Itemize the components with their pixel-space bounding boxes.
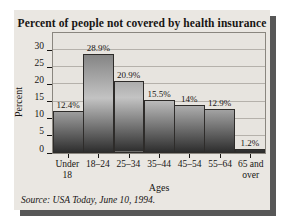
plot-area: 12.4%28.9%20.9%15.5%14%12.9%1.2%05101520…	[52, 32, 266, 154]
bar	[204, 109, 235, 153]
x-axis-tick	[220, 154, 221, 158]
y-axis-tick	[47, 84, 52, 85]
x-axis-title: Ages	[52, 182, 266, 193]
y-axis-tick	[47, 135, 52, 136]
bar-value-label: 28.9%	[87, 43, 110, 53]
y-axis-tick-label: 5	[22, 127, 44, 136]
x-axis-tick	[129, 154, 130, 158]
y-axis-tick-label: 15	[22, 93, 44, 102]
category-label: 45–54	[174, 159, 205, 181]
x-axis-category-row: Under 1818–2425–3435–4445–5455–6465 and …	[52, 159, 266, 181]
category-label: 18–24	[83, 159, 114, 181]
y-axis-tick-label: 25	[22, 58, 44, 67]
bar-value-label: 14%	[181, 94, 198, 104]
x-axis-tick	[250, 154, 251, 158]
y-axis-tick-label: 30	[22, 41, 44, 50]
category-label: 25–34	[113, 159, 144, 181]
category-label: 65 and over	[235, 159, 266, 181]
category-label: 35–44	[144, 159, 175, 181]
x-axis-tick	[189, 154, 190, 158]
category-label: Under 18	[52, 159, 83, 181]
y-axis-tick	[47, 153, 52, 154]
y-axis-tick	[47, 67, 52, 68]
source-citation: Source: USA Today, June 10, 1994.	[21, 195, 155, 205]
bar	[53, 111, 84, 154]
chart-card: Percent of people not covered by health …	[14, 10, 270, 210]
chart-title: Percent of people not covered by health …	[14, 17, 270, 29]
bar	[174, 105, 205, 153]
y-axis-tick	[47, 101, 52, 102]
bar	[235, 149, 265, 153]
bar	[144, 100, 175, 153]
grid-line	[53, 49, 265, 50]
y-axis-tick-label: 10	[22, 110, 44, 119]
bar-value-label: 12.9%	[208, 98, 231, 108]
x-axis-tick	[68, 154, 69, 158]
y-axis-tick	[47, 50, 52, 51]
y-axis-tick-label: 0	[22, 144, 44, 153]
bar-value-label: 12.4%	[57, 100, 80, 110]
x-axis-tick	[98, 154, 99, 158]
category-label: 55–64	[205, 159, 236, 181]
y-axis-tick	[47, 118, 52, 119]
bar	[83, 54, 114, 153]
y-axis-tick-label: 20	[22, 75, 44, 84]
x-axis-tick	[159, 154, 160, 158]
bar	[114, 81, 145, 153]
bar-value-label: 1.2%	[240, 138, 259, 148]
bar-value-label: 20.9%	[117, 70, 140, 80]
bar-value-label: 15.5%	[147, 89, 170, 99]
